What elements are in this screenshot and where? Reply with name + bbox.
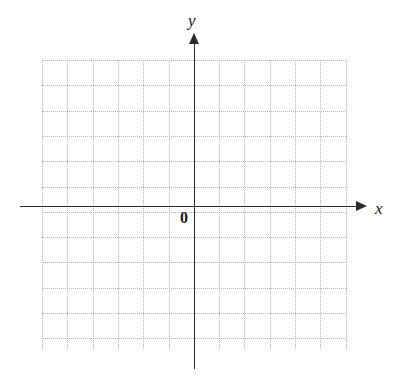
y-axis-line (194, 42, 195, 369)
grid-line-vertical (169, 60, 170, 349)
grid-line-vertical (219, 60, 220, 349)
coordinate-plane-figure: y x 0 (0, 0, 393, 377)
origin-label: 0 (180, 210, 188, 226)
grid-line-vertical (143, 60, 144, 349)
grid-line-vertical (42, 60, 43, 349)
y-axis-label: y (188, 12, 196, 29)
grid-line-vertical (67, 60, 68, 349)
grid-line-vertical (93, 60, 94, 349)
x-axis-line (20, 206, 358, 207)
grid-line-vertical (346, 60, 347, 349)
y-axis-arrowhead-icon (189, 33, 199, 44)
grid-line-vertical (244, 60, 245, 349)
grid-line-vertical (118, 60, 119, 349)
grid-line-vertical (320, 60, 321, 349)
x-axis-label: x (375, 200, 383, 217)
x-axis-arrowhead-icon (356, 201, 367, 211)
grid-line-vertical (295, 60, 296, 349)
grid-line-vertical (270, 60, 271, 349)
